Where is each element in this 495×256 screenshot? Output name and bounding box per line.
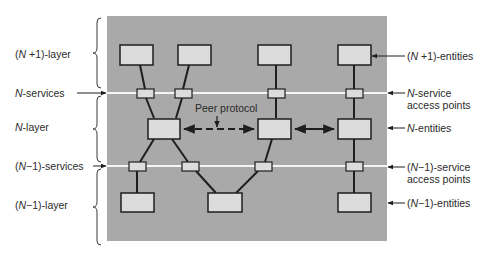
label-n-plus-1-entities: (N +1)-entities [407,50,473,62]
n-entity-1 [148,119,180,139]
n-minus-1-sap-4 [346,162,363,171]
n-plus-1-entity-3 [258,45,291,65]
label-n-plus-1-layer: (N +1)-layer [15,48,71,60]
label-n-minus-1-entities: (N−1)-entities [407,197,470,209]
n-minus-1-entity-2 [208,193,242,212]
brace-n-plus-1-layer [93,18,101,88]
n-entity-3 [338,119,371,139]
n-sap-3 [268,89,285,98]
label-n-sap-line1: N-service [407,87,451,99]
n-plus-1-entity-2 [178,45,211,65]
n-minus-1-sap-3 [255,162,272,171]
n-entity-2 [258,119,291,139]
label-n-sap-line2: access points [407,99,471,111]
brace-n-minus-1-layer [93,169,101,245]
n-sap-2 [175,89,192,98]
n-sap-1 [137,89,154,98]
n-plus-1-entity-1 [120,45,153,65]
label-n-services: N-services [15,87,65,99]
n-minus-1-entity-3 [338,193,371,212]
label-n-minus-1-sap-line2: access points [407,173,471,185]
label-n-minus-1-services: (N−1)-services [15,160,84,172]
n-sap-4 [346,89,363,98]
layer-braces [93,18,101,245]
label-n-layer: N-layer [15,121,49,133]
label-n-minus-1-sap-line1: (N−1)-service [407,161,470,173]
n-minus-1-sap-2 [182,162,199,171]
label-n-entities: N-entities [407,122,451,134]
brace-n-layer [93,96,101,162]
n-plus-1-entity-4 [338,45,371,65]
label-n-minus-1-layer: (N−1)-layer [15,199,68,211]
n-minus-1-sap-1 [129,162,146,171]
label-peer-protocol: Peer protocol [195,102,257,114]
n-minus-1-entity-1 [121,193,154,212]
